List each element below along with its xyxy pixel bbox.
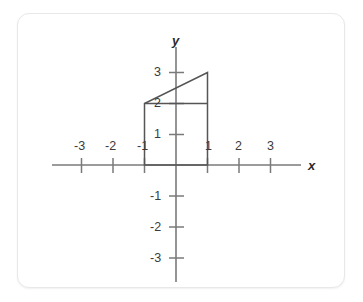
y-tick-label-3: 3 [154,66,161,79]
x-tick-label--2: -2 [105,140,116,153]
y-tick-label-2: 2 [154,97,161,110]
y-tick-label-1: 1 [154,128,161,141]
y-tick-label--1: -1 [150,190,161,203]
x-tick-label-3: 3 [267,140,274,153]
x-tick-label-1: 1 [205,140,212,153]
y-axis-label: y [172,34,179,47]
y-tick-label--2: -2 [150,221,161,234]
y-tick-label--3: -3 [150,252,161,265]
x-tick-label--3: -3 [74,140,85,153]
x-tick-label--1: -1 [137,140,148,153]
screenshot-root: -3 -2 -1 1 2 3 3 2 1 -1 -2 -3 y x [0,0,363,302]
x-tick-label-2: 2 [235,140,242,153]
x-axis-label: x [308,159,315,172]
coordinate-plane-figure [0,0,363,302]
